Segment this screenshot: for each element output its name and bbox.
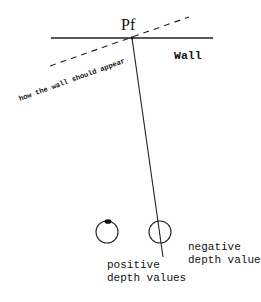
apparent-wall-label: how the wall should appear — [18, 57, 126, 103]
eye-circle — [96, 221, 118, 243]
eye-positive-depth — [96, 219, 118, 243]
negative-depth-label-line2: depth values — [188, 254, 261, 266]
wall-label: Wall — [174, 49, 202, 62]
positive-depth-label-line1: positive — [107, 259, 160, 271]
pf-point — [131, 37, 134, 40]
perspective-depth-diagram: Pf Wall how the wall should appear posit… — [0, 0, 261, 302]
pf-label: Pf — [121, 16, 136, 33]
sight-line — [132, 38, 163, 257]
positive-depth-label-line2: depth values — [107, 272, 186, 284]
pupil-icon — [105, 219, 112, 224]
negative-depth-label-line1: negative — [188, 241, 241, 253]
